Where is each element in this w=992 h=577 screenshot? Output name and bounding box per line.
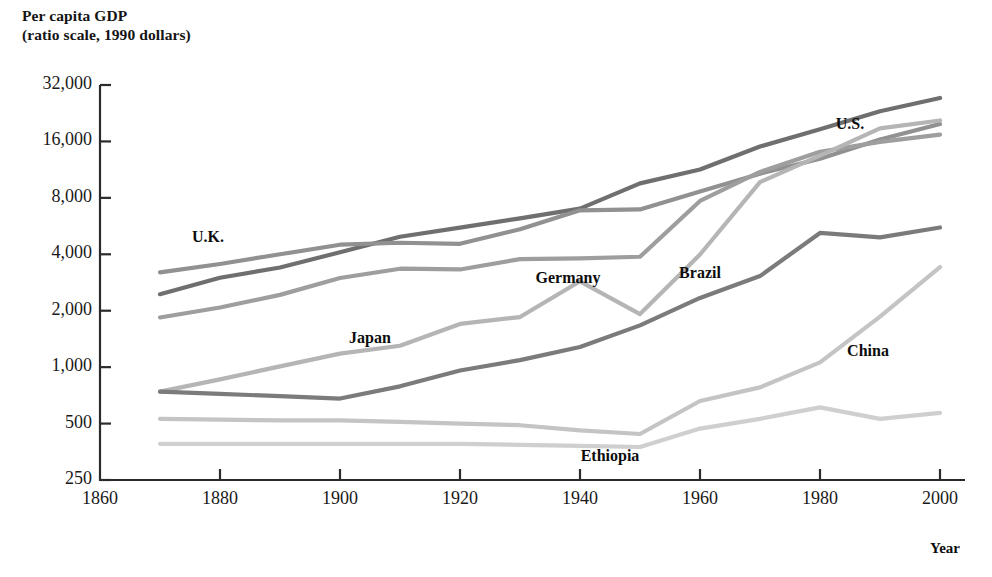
y-axis-tick-label: 2,000 [0, 299, 92, 320]
series-label-us: U.S. [836, 115, 864, 133]
x-axis-tick-label: 1940 [540, 488, 620, 509]
x-axis-tick-label: 1920 [420, 488, 500, 509]
y-axis-tick-label: 1,000 [0, 355, 92, 376]
series-line-us [160, 98, 940, 294]
y-axis-tick-label: 4,000 [0, 242, 92, 263]
series-label-uk: U.K. [192, 228, 224, 246]
x-axis-tick-label: 1960 [660, 488, 740, 509]
y-axis-tick-label: 32,000 [0, 73, 92, 94]
x-axis-tick-label: 1900 [300, 488, 380, 509]
x-axis-tick-label: 1880 [180, 488, 260, 509]
chart-container: Per capita GDP (ratio scale, 1990 dollar… [0, 0, 992, 577]
series-label-ethiopia: Ethiopia [581, 447, 640, 465]
series-label-japan: Japan [349, 329, 391, 347]
series-label-brazil: Brazil [679, 264, 721, 282]
y-axis-ticks [100, 85, 111, 480]
y-axis-tick-label: 500 [0, 412, 92, 433]
series-line-uk [160, 124, 940, 272]
x-axis-ticks [220, 469, 940, 480]
series-label-germany: Germany [536, 269, 601, 287]
x-axis-tick-label: 2000 [900, 488, 980, 509]
series-label-china: China [847, 342, 889, 360]
y-axis-tick-label: 250 [0, 468, 92, 489]
series-line-germany [160, 135, 940, 318]
x-axis-tick-label: 1860 [60, 488, 140, 509]
x-axis-tick-label: 1980 [780, 488, 860, 509]
x-axis-title: Year [930, 540, 960, 557]
y-axis-tick-label: 8,000 [0, 186, 92, 207]
y-axis-tick-label: 16,000 [0, 129, 92, 150]
